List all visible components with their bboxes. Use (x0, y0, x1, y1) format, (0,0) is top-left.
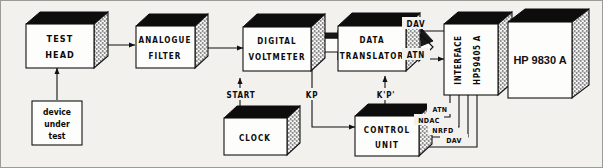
signal-label-kpp: K'P' (371, 88, 401, 100)
block-clock[interactable]: CLOCK (224, 106, 300, 155)
data-translator-label-line2: TRANSLATOR (340, 52, 404, 61)
start-label: START (226, 91, 255, 100)
dut-label-line3: test (48, 131, 65, 141)
block-device-under-test[interactable]: device under test (32, 101, 82, 145)
signal-label-kp: KP (300, 88, 324, 100)
test-head-label-line2: HEAD (45, 50, 75, 60)
block-hp9830a[interactable]: HP 9830 A (508, 9, 589, 98)
dvm-label-line2: VOLTMETER (248, 53, 305, 62)
dvm-label-line1: DIGITAL (257, 37, 296, 46)
control-unit-label-line1: CONTROL (364, 126, 410, 135)
ndac-bus-label: NDAC (418, 117, 440, 125)
signal-label-dav-bus: DAV (440, 134, 468, 145)
dut-label-line2: under (44, 119, 70, 129)
dav-bus-label: DAV (446, 137, 462, 145)
kpp-label: K'P' (377, 91, 395, 100)
signal-label-start: START (223, 88, 259, 100)
interface-label: INTERFACE (454, 35, 463, 84)
hp9830a-label: HP 9830 A (513, 54, 566, 66)
block-digital-voltmeter[interactable]: DIGITAL VOLTMETER (243, 14, 325, 71)
signal-label-atn-top: ATN (402, 48, 430, 60)
atn-top-label: ATN (407, 51, 425, 60)
test-head-label-line1: TEST (47, 34, 74, 44)
data-translator-label-line1: DATA (359, 36, 384, 45)
signal-label-dav-top: DAV (402, 17, 430, 29)
block-diagram-canvas: TEST HEAD device under test ANALOGUE FIL… (0, 0, 603, 168)
analogue-filter-label-line2: FILTER (149, 52, 182, 61)
signal-label-ndac-bus: NDAC (414, 114, 444, 125)
interface-model-label: HP59405 A (473, 35, 482, 85)
block-control-unit[interactable]: CONTROL UNIT (355, 104, 432, 156)
analogue-filter-label-line1: ANALOGUE (138, 36, 191, 45)
block-analogue-filter[interactable]: ANALOGUE FILTER (136, 14, 208, 68)
signal-label-nrfd-bus: NRFD (428, 124, 458, 135)
clock-label: CLOCK (239, 134, 271, 143)
nrfd-bus-label: NRFD (432, 127, 453, 135)
atn-bus-label: ATN (432, 106, 447, 114)
kp-label: KP (306, 91, 318, 100)
signal-label-atn-bus: ATN (427, 103, 453, 114)
block-diagram-svg: TEST HEAD device under test ANALOGUE FIL… (0, 0, 603, 168)
control-unit-label-line2: UNIT (375, 141, 399, 150)
block-interface[interactable]: INTERFACE HP59405 A (444, 12, 512, 95)
block-test-head[interactable]: TEST HEAD (26, 12, 108, 68)
dav-top-label: DAV (407, 20, 426, 29)
dut-label-line1: device (43, 107, 71, 117)
